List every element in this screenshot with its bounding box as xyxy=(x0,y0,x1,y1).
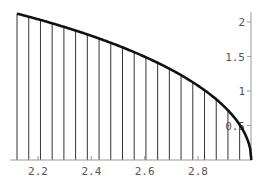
x-tick-label: 2.4 xyxy=(81,165,101,178)
x-tick-label: 2.8 xyxy=(188,165,208,178)
chart: 2.22.42.62.8 0.511.52 xyxy=(0,0,260,181)
y-tick-label: 1.5 xyxy=(225,51,245,64)
x-tick-label: 2.6 xyxy=(135,165,155,178)
y-tick-label: 2 xyxy=(238,16,245,29)
x-tick-label: 2.2 xyxy=(28,165,48,178)
vertical-lines xyxy=(17,14,251,160)
y-ticks: 0.511.52 xyxy=(225,16,251,133)
y-tick-label: 1 xyxy=(238,85,245,98)
